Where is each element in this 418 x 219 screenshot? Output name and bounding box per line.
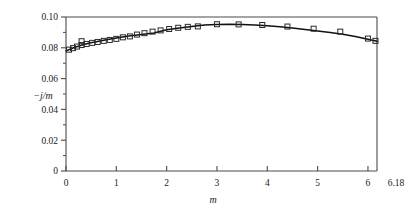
x-tick-label: 6 — [366, 178, 371, 188]
y-axis-title: −j/m — [33, 90, 53, 101]
chart-figure: 00.020.040.060.080.10 0123456 6.18 −j/m … — [0, 0, 418, 219]
x-axis-major-ticks — [66, 166, 368, 171]
x-axis-edge-label: 6.18 — [388, 178, 405, 188]
x-tick-label: 5 — [315, 178, 320, 188]
y-tick-label: 0 — [53, 166, 58, 176]
x-tick-label: 1 — [114, 178, 119, 188]
x-axis-title: m — [209, 194, 216, 205]
x-tick-label: 4 — [265, 178, 270, 188]
x-tick-label: 0 — [64, 178, 69, 188]
y-tick-label: 0.02 — [41, 136, 58, 146]
x-tick-label: 2 — [164, 178, 169, 188]
y-tick-label: 0.08 — [41, 43, 58, 53]
y-tick-label: 0.10 — [41, 12, 58, 22]
y-tick-label: 0.04 — [41, 105, 58, 115]
plot-svg: 00.020.040.060.080.10 0123456 6.18 −j/m … — [0, 0, 418, 219]
data-point-markers — [67, 22, 378, 52]
y-tick-label: 0.06 — [41, 74, 58, 84]
x-tick-label: 3 — [215, 178, 220, 188]
x-axis-tick-labels: 0123456 — [64, 178, 371, 188]
